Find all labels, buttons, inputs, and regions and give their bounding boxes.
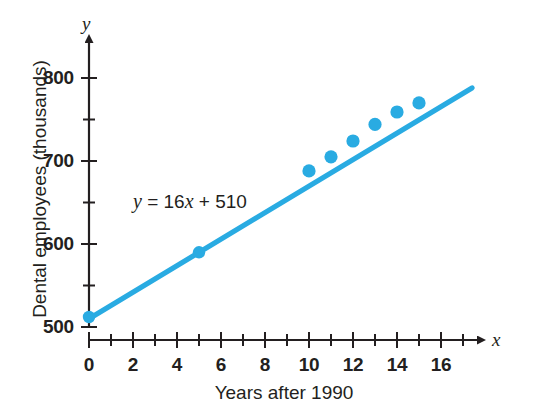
chart-figure: y x 800 700 600 500 0 2 4 6 8 10 12 14 1… (0, 0, 533, 418)
x-axis-variable-label: x (492, 330, 500, 349)
y-axis-variable-label: y (82, 14, 90, 33)
x-tick-label-2: 2 (113, 355, 153, 374)
equation-y-symbol: y (133, 190, 142, 212)
data-point (390, 105, 403, 118)
data-point (412, 96, 425, 109)
x-tick-label-0: 0 (69, 355, 109, 374)
equation-tail: + 510 (194, 191, 247, 212)
data-point (83, 311, 95, 323)
x-tick-label-16: 16 (421, 355, 461, 374)
y-tick-label-500: 500 (26, 317, 74, 336)
x-tick-label-6: 6 (201, 355, 241, 374)
x-tick-label-10: 10 (289, 355, 329, 374)
equation-middle: = 16 (142, 191, 185, 212)
x-tick-label-4: 4 (157, 355, 197, 374)
data-point (346, 134, 359, 147)
x-axis-title: Years after 1990 (89, 383, 479, 402)
data-point (368, 118, 381, 131)
equation-annotation: y = 16x + 510 (133, 190, 247, 213)
data-point (302, 164, 315, 177)
y-axis-title: Dental employees (thousands) (29, 59, 51, 319)
x-tick-label-12: 12 (333, 355, 373, 374)
equation-x-symbol: x (185, 190, 194, 212)
data-point (193, 246, 205, 258)
data-point (324, 150, 337, 163)
x-tick-label-14: 14 (377, 355, 417, 374)
x-tick-label-8: 8 (245, 355, 285, 374)
y-axis-title-wrapper: Dental employees (thousands) (29, 59, 55, 319)
